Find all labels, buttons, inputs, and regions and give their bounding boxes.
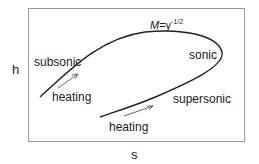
x-axis-label: s [131, 148, 138, 161]
heating-label-upper: heating [52, 91, 91, 103]
y-axis-label: h [12, 63, 19, 76]
heating-label-lower: heating [109, 121, 148, 133]
subsonic-label: subsonic [34, 56, 81, 68]
supersonic-label: supersonic [173, 93, 231, 105]
fanno-rayleigh-curve [0, 0, 259, 164]
curve-equation-label: M=γ-1/2 [150, 16, 183, 31]
sonic-label: sonic [189, 49, 217, 61]
heating-arrow-upper-icon [58, 74, 78, 88]
